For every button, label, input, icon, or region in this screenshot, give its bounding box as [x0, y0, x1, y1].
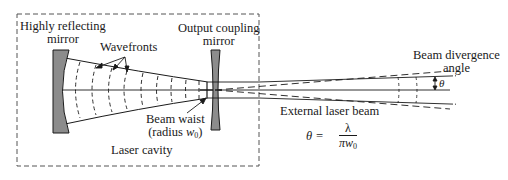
output-coupling-mirror-label: Output coupling mirror: [178, 22, 260, 48]
beam-divergence-label: Beam divergence angle: [413, 49, 500, 75]
equation-fraction: λ πw0: [339, 122, 357, 154]
equation-denominator: πw0: [339, 136, 357, 154]
beam-envelope-top: [65, 58, 208, 82]
external-beam-top: [259, 76, 450, 82]
wavefronts-label: Wavefronts: [100, 41, 157, 54]
text: (radius: [148, 125, 186, 139]
subscript: 0: [353, 142, 357, 151]
external-laser-beam-label: External laser beam: [280, 105, 379, 118]
label-line: (radius w0): [146, 126, 205, 142]
equation-lhs: θ =: [306, 130, 324, 143]
highly-reflecting-mirror: [53, 50, 69, 133]
beam-waist-label: Beam waist (radius w0): [146, 113, 205, 142]
theta-label: θ: [439, 77, 444, 90]
label-line: angle: [413, 62, 500, 75]
beam-waist-arrow: [187, 98, 206, 113]
highly-reflecting-mirror-label: Highly reflecting mirror: [20, 20, 106, 46]
label-line: mirror: [20, 33, 106, 46]
wavefront-arrows: [96, 57, 129, 72]
laser-cavity-label: Laser cavity: [111, 144, 172, 157]
label-line: mirror: [178, 35, 260, 48]
text: ): [198, 125, 202, 139]
equation-numerator: λ: [339, 122, 357, 136]
text: πw: [339, 136, 353, 150]
theta-angle-indicator: [433, 77, 437, 90]
